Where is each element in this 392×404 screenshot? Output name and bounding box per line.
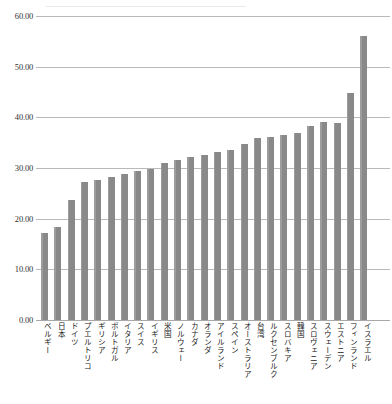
bar-highlight xyxy=(121,174,123,320)
bar-highlight xyxy=(334,123,336,320)
x-tick-label: イギリス xyxy=(145,322,157,354)
bar-highlight xyxy=(54,227,56,320)
bar-highlight xyxy=(187,157,189,320)
x-tick-label: イスラエル xyxy=(358,322,370,362)
bar-highlight xyxy=(108,177,110,320)
x-tick-label: ギリシア xyxy=(92,322,104,354)
y-tick-label: 0.00 xyxy=(1,315,33,325)
bar-highlight xyxy=(81,182,83,320)
bar xyxy=(161,163,168,320)
x-tick-label: スウェーデン xyxy=(318,322,330,370)
x-tick-label: プエルトリコ xyxy=(79,322,91,370)
x-tick-label: 台湾 xyxy=(252,322,264,338)
bar xyxy=(147,169,154,320)
x-tick-label: 韓国 xyxy=(292,322,304,338)
bar-highlight xyxy=(161,163,163,320)
bar xyxy=(81,182,88,320)
bar-highlight xyxy=(347,93,349,320)
bar-highlight xyxy=(174,160,176,320)
bar xyxy=(267,137,274,320)
bar-highlight xyxy=(254,138,256,320)
bar xyxy=(360,36,367,320)
y-tick-label: 20.00 xyxy=(1,214,33,224)
y-tick-label: 10.00 xyxy=(1,264,33,274)
bar xyxy=(334,123,341,320)
bar xyxy=(121,174,128,320)
bar-chart: 0.0010.0020.0030.0040.0050.0060.00 ベルギー日… xyxy=(0,0,392,404)
bar-series xyxy=(36,16,390,320)
bar xyxy=(254,138,261,320)
bar-highlight xyxy=(147,169,149,320)
bar xyxy=(241,144,248,320)
bar-highlight xyxy=(267,137,269,320)
x-tick-label: ルクセンブルク xyxy=(265,322,277,378)
bar xyxy=(320,122,327,320)
bar xyxy=(307,126,314,320)
y-tick-label: 60.00 xyxy=(1,11,33,21)
cropped-title-line xyxy=(46,6,246,7)
x-tick-label: イタリア xyxy=(119,322,131,354)
bar-highlight xyxy=(214,152,216,320)
bar xyxy=(108,177,115,320)
bar-highlight xyxy=(280,135,282,320)
bar-highlight xyxy=(94,180,96,320)
bar xyxy=(94,180,101,320)
y-tick-label: 40.00 xyxy=(1,112,33,122)
plot-area xyxy=(36,16,390,320)
x-tick-label: 日本 xyxy=(52,322,64,338)
bar xyxy=(201,155,208,320)
x-tick-label: アイルランド xyxy=(212,322,224,370)
x-tick-label: スロバキア xyxy=(278,322,290,362)
x-tick-label: スペイン xyxy=(225,322,237,354)
cropped-title-area xyxy=(46,0,246,9)
x-axis-labels: ベルギー日本ドイツプエルトリコギリシアポルトガルイタリアスイスイギリス米国ノルウ… xyxy=(36,322,390,404)
bar-highlight xyxy=(360,36,362,320)
x-tick-label: ポルトガル xyxy=(105,322,117,362)
x-tick-label: スイス xyxy=(132,322,144,346)
bar-highlight xyxy=(241,144,243,320)
bar xyxy=(134,171,141,320)
x-tick-label: エストニア xyxy=(331,322,343,362)
x-tick-label: オーストラリア xyxy=(238,322,250,378)
y-tick-label: 50.00 xyxy=(1,62,33,72)
bar-highlight xyxy=(134,171,136,320)
x-tick-label: ノルウェー xyxy=(172,322,184,362)
bar-highlight xyxy=(307,126,309,320)
bar-highlight xyxy=(41,233,43,320)
gridline-0.00 xyxy=(36,320,390,321)
bar-highlight xyxy=(201,155,203,320)
bar xyxy=(347,93,354,320)
y-axis: 0.0010.0020.0030.0040.0050.0060.00 xyxy=(0,16,33,320)
bar xyxy=(187,157,194,320)
bar-highlight xyxy=(320,122,322,320)
x-tick-label: ベルギー xyxy=(39,322,51,354)
x-tick-label: 米国 xyxy=(159,322,171,338)
bar xyxy=(68,200,75,320)
x-tick-label: オランダ xyxy=(198,322,210,354)
bar xyxy=(280,135,287,320)
bar-highlight xyxy=(68,200,70,320)
bar xyxy=(227,150,234,320)
x-tick-label: ドイツ xyxy=(65,322,77,346)
bar-highlight xyxy=(227,150,229,320)
bar xyxy=(41,233,48,320)
bar xyxy=(214,152,221,320)
bar-highlight xyxy=(294,133,296,320)
x-tick-label: カナダ xyxy=(185,322,197,346)
x-tick-label: スロヴェニア xyxy=(305,322,317,370)
x-tick-label: フィンランド xyxy=(345,322,357,370)
bar xyxy=(174,160,181,320)
y-tick-label: 30.00 xyxy=(1,163,33,173)
bar xyxy=(54,227,61,320)
bar xyxy=(294,133,301,320)
